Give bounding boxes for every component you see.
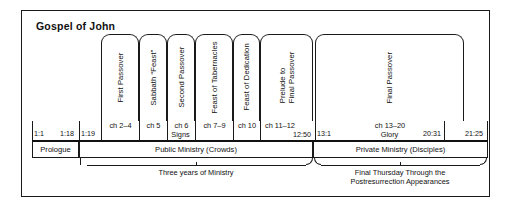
section-tab-second-passover: Second Passover — [167, 34, 195, 121]
section-tab-first-passover: First Passover — [101, 34, 139, 121]
ref-chapter-label: ch 2–4 — [102, 121, 139, 130]
ref-chapter-label: ch 6 — [168, 121, 195, 130]
verse-mark-12-50: 12:50 — [293, 130, 311, 139]
section-tab-label: First Passover — [117, 53, 126, 103]
tick-verse-21-25-end — [487, 121, 488, 140]
ref-chapter-label: ch 5 — [140, 121, 167, 130]
band-private-ministry: Private Ministry (Disciples) — [313, 142, 488, 158]
caption-private-ministry-line1: Final Thursday Through the — [355, 168, 446, 177]
brace-private-ministry-left — [314, 158, 321, 165]
gospel-of-john-diagram: First Passover Sabbath “Feast” Second Pa… — [22, 11, 491, 198]
verse-mark-1-19: 1:19 — [81, 129, 95, 138]
span-label-glory: Glory — [315, 130, 464, 139]
section-tab-label: Second Passover — [178, 47, 187, 108]
band-public-ministry: Public Ministry (Crowds) — [79, 142, 313, 158]
caption-private-ministry-line2: Postresurrection Appearances — [350, 177, 449, 186]
brace-public-ministry-left — [80, 158, 81, 165]
section-tab-sabbath-feast: Sabbath “Feast” — [139, 34, 167, 121]
section-tab-prelude-to-final-passover: Prelude to Final Passover — [260, 34, 313, 121]
brace-private-ministry-right — [480, 158, 487, 165]
verse-mark-1-18: 1:18 — [60, 129, 74, 138]
caption-public-ministry: Three years of Ministry — [126, 168, 266, 177]
verse-mark-1-1: 1:1 — [34, 129, 44, 138]
tick-verse-1-19-div — [79, 121, 80, 140]
section-tab-feast-of-dedication: Feast of Dedication — [233, 34, 260, 121]
section-tab-label: Final Passover — [386, 52, 395, 104]
tick-verse-1-1 — [32, 121, 33, 140]
section-tab-label: Feast of Tabernacles — [211, 41, 220, 113]
brace-public-ministry-stem — [196, 162, 197, 166]
verse-mark-21-25: 21:25 — [465, 129, 483, 138]
ref-chapter-label: ch 10 — [234, 121, 260, 130]
section-tab-final-passover: Final Passover — [315, 34, 464, 121]
brace-private-ministry-stem — [400, 162, 401, 166]
section-tab-feast-of-tabernacles: Feast of Tabernacles — [195, 34, 233, 121]
span-label-signs: Signs — [101, 130, 260, 139]
section-tab-label: Feast of Dedication — [243, 44, 252, 111]
ref-chapter-label: ch 13–20 — [316, 121, 464, 130]
ref-cell-ch-11-12: ch 11–12 12:50 — [260, 121, 313, 140]
section-tab-label: Prelude to Final Passover — [279, 52, 296, 104]
caption-private-ministry: Final Thursday Through the Postresurrect… — [320, 168, 480, 187]
brace-public-ministry-right — [306, 158, 313, 165]
ref-chapter-label: ch 11–12 — [261, 121, 313, 130]
band-prologue: Prologue — [32, 142, 79, 158]
section-tab-label: Sabbath “Feast” — [150, 50, 159, 106]
ref-chapter-label: ch 7–9 — [196, 121, 233, 130]
gospel-of-john-chart-frame: Gospel of John First Passover Sabbath “F… — [21, 10, 490, 197]
section-tab-label-line2: Final Passover — [286, 52, 295, 104]
